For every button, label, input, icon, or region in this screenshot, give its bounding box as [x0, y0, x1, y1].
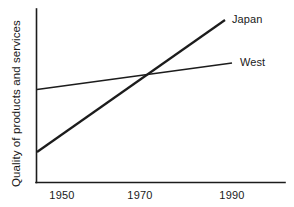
series-label-japan: Japan [232, 13, 262, 25]
line-chart: Quality of products and services Japan W… [0, 0, 294, 207]
chart-plot-area [0, 0, 294, 207]
x-tick-label-1970: 1970 [116, 189, 164, 201]
y-axis-title: Quality of products and services [5, 0, 27, 207]
series-line-west [37, 63, 232, 90]
x-tick-label-1990: 1990 [208, 189, 256, 201]
x-tick-label-1950: 1950 [38, 189, 86, 201]
series-label-west: West [240, 56, 265, 68]
